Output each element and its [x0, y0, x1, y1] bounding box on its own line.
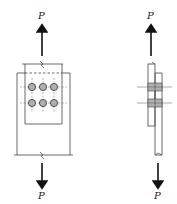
bottom-load-label-right: P — [153, 190, 161, 201]
bolt-icon — [39, 99, 46, 106]
bolt-grid — [28, 83, 57, 106]
bottom-load-label-left: P — [37, 190, 45, 201]
bolt-icon — [50, 83, 57, 90]
upper-plate-section — [148, 64, 155, 126]
top-load-label-right: P — [146, 10, 154, 21]
bolt-icon — [28, 83, 35, 90]
left-plan-view: P — [14, 10, 73, 201]
break-line-icon — [40, 152, 44, 159]
top-load-label-left: P — [37, 10, 45, 21]
inner-plate — [22, 61, 63, 124]
bolt-icon — [39, 83, 46, 90]
right-side-view: P P — [137, 10, 172, 201]
break-line-icon — [40, 61, 44, 68]
bolt-icon — [28, 99, 35, 106]
lap-joint-diagram: P — [0, 0, 177, 204]
bolt-icon — [50, 99, 57, 106]
